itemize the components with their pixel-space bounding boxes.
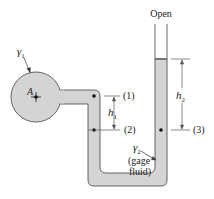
gage-fluid-label-line2: fluid) xyxy=(129,166,151,178)
h2-label: h2 xyxy=(176,89,186,104)
gamma2-label: γ2 xyxy=(133,141,141,156)
point-1-label: (1) xyxy=(123,90,135,102)
point-3-label: (3) xyxy=(193,124,205,136)
open-label: Open xyxy=(150,8,172,19)
h1-label: h1 xyxy=(108,106,118,121)
gamma1-arrow xyxy=(24,58,30,73)
gamma1-label: γ1 xyxy=(17,45,25,60)
point-a-label: A xyxy=(26,86,34,97)
point-3-dot xyxy=(159,128,163,132)
point-2-label: (2) xyxy=(124,124,136,136)
point-1-dot xyxy=(92,94,96,98)
manometer-diagram: Open γ1 A (1) (2) (3) h1 h2 γ2 (gage flu… xyxy=(0,0,214,199)
